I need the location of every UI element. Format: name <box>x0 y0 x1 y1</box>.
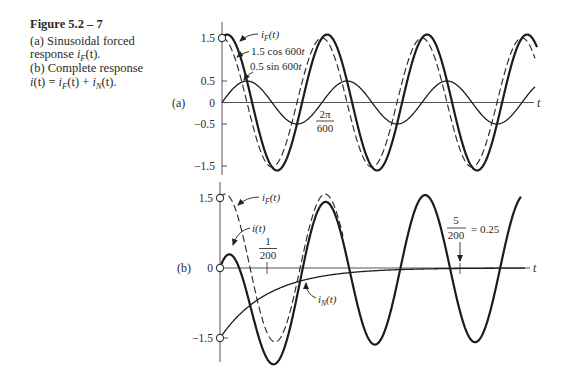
caption-line-b: (b) Complete response <box>30 61 144 75</box>
caption-title: Figure 5.2 – 7 <box>30 17 103 31</box>
panel-b-t-axis-label: t <box>533 261 537 275</box>
eq-plus: (t) + <box>67 75 92 89</box>
panel-a-initial-value-marker <box>218 34 225 41</box>
panel-b-marker-neg1.5 <box>216 334 223 341</box>
xtick-5-value: = 0.25 <box>471 223 500 235</box>
xtick-5-numerator: 5 <box>453 214 459 226</box>
curve-i-complete-response <box>220 195 521 364</box>
xtick-1-denominator: 200 <box>260 249 277 261</box>
figure-canvas: Figure 5.2 – 7 (a) Sinusoidal forced res… <box>0 0 571 375</box>
xtick-5-denominator: 200 <box>448 229 465 241</box>
eq-t-equals: (t) = <box>33 75 58 89</box>
label-b-iF: iF(t) <box>262 191 280 206</box>
panel-a-label: (a) <box>172 96 185 110</box>
label-1.5-cos: 1.5 cos 600t <box>251 45 305 57</box>
panel-b-marker-1.5 <box>216 194 223 201</box>
eq-end: (t). <box>102 75 117 89</box>
panel-a-ytick-label: −0.5 <box>194 118 215 130</box>
panel-b-ytick-label: 0 <box>207 262 213 274</box>
caption-line-a: (a) Sinusoidal forced <box>30 34 136 48</box>
panel-b-label: (b) <box>177 261 191 275</box>
panel-a-t-axis-label: t <box>537 96 541 110</box>
panel-b-ytick-label: 1.5 <box>199 192 214 204</box>
label-b-iN: iN(t) <box>318 293 337 308</box>
panel-a-ytick-label: 0.5 <box>201 75 216 87</box>
curve-iN-natural-response <box>220 268 525 338</box>
panel-b-ytick-label: −1.5 <box>192 332 213 344</box>
arrow-icon <box>240 34 258 41</box>
period-numerator: 2π <box>319 108 331 120</box>
panel-a-ytick-label: −1.5 <box>194 160 215 172</box>
panel-b-marker-0 <box>216 264 223 271</box>
figure-caption: Figure 5.2 – 7 (a) Sinusoidal forced res… <box>30 17 144 91</box>
xtick-1-numerator: 1 <box>265 235 271 247</box>
caption-equation: i(t) = iF(t) + iN(t). <box>30 75 116 91</box>
panel-a-ytick-label: 1.5 <box>201 32 216 44</box>
arrow-icon <box>306 283 316 298</box>
arrow-icon <box>238 197 259 205</box>
panel-b: (b) t 1.5 0 −1.5 1 200 5 200 = 0.25 iF(t… <box>177 182 537 364</box>
figure-svg: Figure 5.2 – 7 (a) Sinusoidal forced res… <box>0 0 571 375</box>
caption-line-a2-text: response <box>30 47 77 61</box>
panel-a: (a) t 1.5 0.5 0 −0.5 −1.5 iF(t) 1.5 cos … <box>172 22 541 175</box>
label-iF: iF(t) <box>261 28 279 43</box>
label-b-i: i(t) <box>252 222 266 235</box>
label-0.5-sin: 0.5 sin 600t <box>250 60 303 72</box>
panel-a-ytick-label: 0 <box>209 97 215 109</box>
caption-arg: (t). <box>86 47 101 61</box>
period-denominator: 600 <box>317 122 334 134</box>
